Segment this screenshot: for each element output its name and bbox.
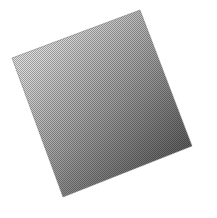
image-canvas — [0, 0, 217, 218]
gradient-square-figure — [0, 0, 217, 218]
